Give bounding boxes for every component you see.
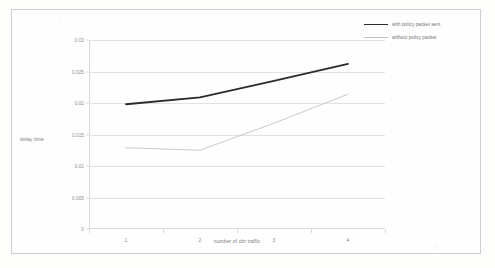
line-chart: delay time number of cbr traffic 0.030.0…: [12, 10, 482, 255]
y-tick-label: 0.025: [72, 69, 84, 74]
x-tick-label: 3: [273, 237, 276, 243]
x-tick-label: 4: [347, 237, 350, 243]
series-line-without-policy: [126, 94, 348, 150]
chart-legend: with policy packet sent without policy p…: [364, 18, 476, 44]
legend-swatch-line-icon: [364, 24, 388, 26]
plot-area: 0.030.0250.020.0150.010.00501234: [89, 40, 385, 229]
x-tick-mark: [89, 229, 90, 233]
y-tick-label: 0.005: [72, 195, 84, 200]
y-tick-label: 0.015: [72, 132, 84, 137]
x-tick-mark: [311, 229, 312, 233]
x-tick-label: 1: [125, 237, 128, 243]
legend-item-with-policy: with policy packet sent: [364, 18, 476, 31]
y-tick-label: 0.01: [75, 164, 84, 169]
y-tick-label: 0.02: [75, 101, 84, 106]
x-tick-mark: [163, 229, 164, 233]
x-axis-title: number of cbr traffic: [89, 238, 385, 244]
chart-page: delay time number of cbr traffic 0.030.0…: [0, 0, 495, 268]
x-tick-mark: [237, 229, 238, 233]
series-layer: [89, 40, 385, 229]
y-axis-title: delay time: [20, 136, 44, 142]
chart-frame: delay time number of cbr traffic 0.030.0…: [11, 9, 481, 254]
legend-item-without-policy: without policy packet: [364, 31, 476, 44]
y-tick-label: 0: [81, 227, 84, 232]
x-tick-mark: [385, 229, 386, 233]
legend-label-without-policy: without policy packet: [392, 35, 437, 40]
y-tick-label: 0.03: [75, 38, 84, 43]
x-tick-label: 2: [199, 237, 202, 243]
series-line-with-policy: [126, 64, 348, 104]
legend-swatch-line-icon: [364, 37, 388, 38]
legend-label-with-policy: with policy packet sent: [392, 22, 440, 27]
